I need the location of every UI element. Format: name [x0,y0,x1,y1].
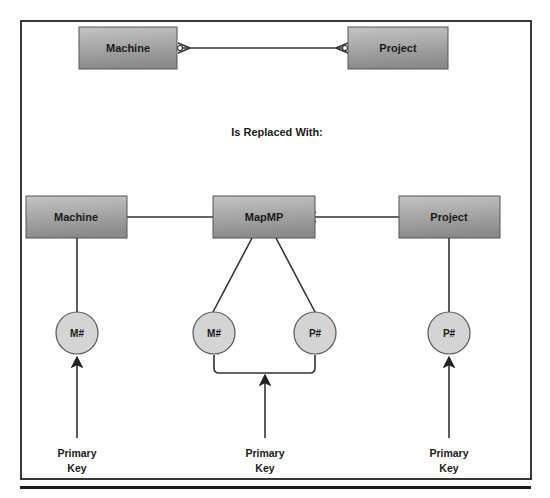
entity-mapmp[interactable]: MapMP [213,196,315,238]
entity-project[interactable]: Project [399,196,500,238]
key-label-line2: Key [67,462,86,474]
composite-key-bracket [214,355,315,373]
attr-label: P# [443,328,456,339]
entity-label: Machine [106,42,150,54]
attribute-mapmp-mnum[interactable]: M# [193,312,235,354]
attribute-project-pnum[interactable]: P# [428,312,470,354]
diagram-frame [21,21,531,479]
entity-label: Project [379,42,417,54]
attr-link [276,238,315,312]
attr-label: M# [70,328,84,339]
key-label-line1: Primary [245,447,284,459]
entity-label: MapMP [245,211,284,223]
attribute-mapmp-pnum[interactable]: P# [294,312,336,354]
entity-label: Project [430,211,468,223]
attr-label: M# [207,328,221,339]
er-diagram: Machine Project Is Replaced With: Machin… [0,0,550,498]
attr-label: P# [309,328,322,339]
entity-machine[interactable]: Machine [26,196,127,238]
attribute-machine-mnum[interactable]: M# [56,312,98,354]
key-label-line1: Primary [429,447,468,459]
entity-project-top[interactable]: Project [348,27,448,69]
key-label-line1: Primary [57,447,96,459]
top-relationship [178,43,349,53]
entity-machine-top[interactable]: Machine [79,27,177,69]
heading: Is Replaced With: [231,126,323,138]
attr-link [213,238,252,312]
entity-label: Machine [54,211,98,223]
key-label-line2: Key [255,462,274,474]
bottom-rule [20,486,531,489]
key-label-line2: Key [439,462,458,474]
